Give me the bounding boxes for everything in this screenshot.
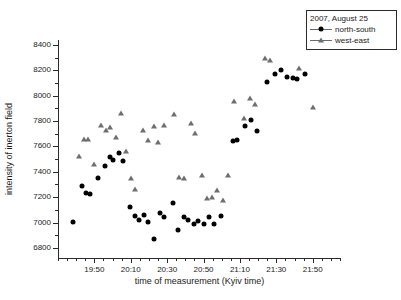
data-point-north-south	[136, 217, 141, 222]
x-axis-tick-minor	[295, 258, 296, 261]
data-point-north-south	[265, 79, 270, 84]
data-point-west-east	[267, 58, 273, 63]
data-point-west-east	[192, 131, 198, 136]
x-axis-tick-minor	[222, 258, 223, 261]
data-point-north-south	[151, 236, 156, 241]
data-point-north-south	[196, 218, 201, 223]
y-axis-tick-minor	[55, 83, 58, 84]
data-point-north-south	[248, 117, 253, 122]
x-axis-tick-minor	[149, 258, 150, 261]
data-point-west-east	[220, 197, 226, 202]
x-axis-tick-minor	[331, 258, 332, 261]
data-point-west-east	[155, 140, 161, 145]
y-axis-tick-label: 7200	[33, 193, 51, 201]
data-point-west-east	[181, 176, 187, 181]
x-axis-tick-minor	[76, 258, 77, 261]
legend-title: 2007, August 25	[310, 13, 393, 24]
data-point-north-south	[161, 214, 166, 219]
data-point-west-east	[118, 111, 124, 116]
y-axis-tick-minor	[55, 184, 58, 185]
x-axis-tick-major	[313, 258, 314, 263]
data-point-north-south	[235, 138, 240, 143]
x-axis-tick-minor	[213, 258, 214, 261]
data-point-west-east	[199, 173, 205, 178]
data-point-north-south	[127, 205, 132, 210]
y-axis-tick-label: 8200	[33, 66, 51, 74]
x-axis-tick-label: 21:50	[303, 266, 323, 274]
x-axis-tick-minor	[140, 258, 141, 261]
data-point-west-east	[161, 122, 167, 127]
data-point-north-south	[111, 158, 116, 163]
x-axis-tick-major	[276, 258, 277, 263]
x-axis-line	[58, 258, 341, 259]
legend-item-north-south: north-south	[310, 24, 393, 35]
x-axis-tick-minor	[285, 258, 286, 261]
x-axis-tick-label: 21:10	[230, 266, 250, 274]
y-axis-tick-minor	[55, 134, 58, 135]
data-point-west-east	[241, 116, 247, 121]
data-point-west-east	[225, 173, 231, 178]
data-point-north-south	[218, 213, 223, 218]
x-axis-tick-major	[240, 258, 241, 263]
data-point-west-east	[91, 162, 97, 167]
data-point-west-east	[214, 187, 220, 192]
x-axis-tick-minor	[304, 258, 305, 261]
plot-area: 68007000720074007600780080008200840019:5…	[58, 40, 340, 258]
x-axis-tick-major	[167, 258, 168, 263]
data-point-north-south	[186, 218, 191, 223]
x-axis-tick-minor	[113, 258, 114, 261]
legend-label-north-south: north-south	[332, 25, 375, 34]
x-axis-tick-label: 20:10	[121, 266, 141, 274]
x-axis-tick-minor	[176, 258, 177, 261]
data-point-north-south	[87, 191, 92, 196]
legend: 2007, August 25 north-south west-east	[306, 10, 397, 50]
y-axis-title-text: intensity of inerton field	[4, 103, 14, 195]
data-point-west-east	[171, 112, 177, 117]
data-point-west-east	[296, 65, 302, 70]
data-point-west-east	[145, 137, 151, 142]
x-axis-tick-minor	[340, 258, 341, 261]
y-axis-tick-major	[53, 172, 58, 173]
data-point-west-east	[113, 134, 119, 139]
data-point-west-east	[209, 194, 215, 199]
data-point-north-south	[176, 228, 181, 233]
data-point-north-south	[121, 159, 126, 164]
data-point-north-south	[302, 71, 307, 76]
data-point-west-east	[76, 153, 82, 158]
data-point-west-east	[151, 123, 157, 128]
x-axis-tick-minor	[322, 258, 323, 261]
data-point-north-south	[79, 183, 84, 188]
y-axis-tick-label: 8000	[33, 92, 51, 100]
y-axis-tick-major	[53, 96, 58, 97]
legend-label-west-east: west-east	[332, 36, 369, 45]
data-point-west-east	[132, 186, 138, 191]
legend-key-circle	[310, 25, 332, 34]
data-point-west-east	[231, 98, 237, 103]
data-point-west-east	[252, 101, 258, 106]
x-axis-tick-minor	[194, 258, 195, 261]
data-point-north-south	[295, 77, 300, 82]
data-point-north-south	[71, 219, 76, 224]
data-point-north-south	[243, 124, 248, 129]
data-point-west-east	[188, 121, 194, 126]
data-point-north-south	[141, 213, 146, 218]
data-point-north-south	[207, 215, 212, 220]
x-axis-tick-major	[204, 258, 205, 263]
y-axis-tick-label: 7400	[33, 168, 51, 176]
x-axis-tick-minor	[185, 258, 186, 261]
y-axis-tick-minor	[55, 210, 58, 211]
x-axis-tick-minor	[85, 258, 86, 261]
x-axis-tick-major	[94, 258, 95, 263]
data-point-north-south	[103, 164, 108, 169]
x-axis-tick-label: 20:50	[194, 266, 214, 274]
x-axis-tick-minor	[258, 258, 259, 261]
data-point-north-south	[96, 175, 101, 180]
y-axis-title: intensity of inerton field	[2, 40, 16, 258]
x-axis-tick-major	[131, 258, 132, 263]
data-point-west-east	[107, 125, 113, 130]
y-axis-tick-label: 7800	[33, 117, 51, 125]
data-point-north-south	[170, 200, 175, 205]
y-axis-tick-minor	[55, 159, 58, 160]
data-point-north-south	[273, 72, 278, 77]
data-point-north-south	[201, 221, 206, 226]
